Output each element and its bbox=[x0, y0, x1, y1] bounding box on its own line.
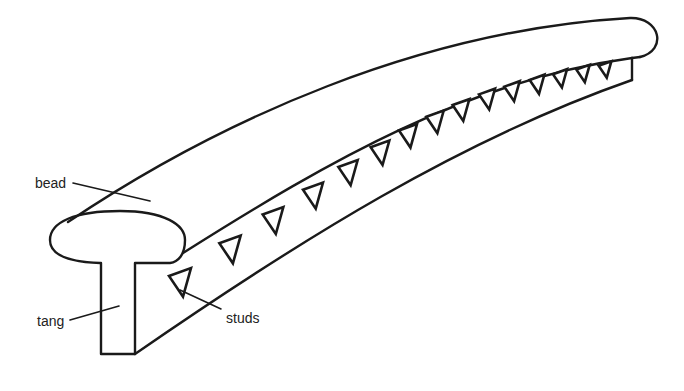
stud-icon bbox=[219, 236, 240, 264]
bead-top-edge bbox=[68, 18, 657, 222]
bead-leader-line bbox=[73, 183, 150, 201]
stud-icon bbox=[371, 141, 390, 165]
strip-diagram: bead tang studs bbox=[0, 0, 684, 391]
stud-icon bbox=[426, 111, 443, 134]
stud-icon bbox=[599, 61, 612, 78]
tang-bottom-edge bbox=[135, 80, 632, 354]
stud-icon bbox=[303, 183, 323, 209]
tang-leader-line bbox=[70, 306, 119, 320]
stud-icon bbox=[169, 268, 191, 297]
studs-label: studs bbox=[226, 310, 259, 326]
stud-icon bbox=[479, 89, 495, 110]
studs-group bbox=[169, 61, 611, 297]
bead-far-lower-edge bbox=[632, 57, 640, 58]
tang-label: tang bbox=[37, 313, 64, 329]
stud-icon bbox=[263, 207, 284, 234]
bead-underside-edge bbox=[183, 58, 632, 253]
bead-label: bead bbox=[35, 175, 66, 191]
stud-icon bbox=[530, 75, 545, 94]
stud-icon bbox=[453, 99, 470, 121]
stud-icon bbox=[504, 81, 519, 101]
stud-icon bbox=[338, 160, 357, 185]
